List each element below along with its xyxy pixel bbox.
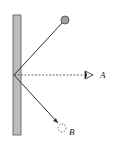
- ball: [61, 16, 69, 24]
- diagram: A B: [0, 0, 114, 148]
- eye-icon: [85, 71, 93, 79]
- ball-image: [58, 124, 66, 132]
- label-b: B: [69, 127, 75, 137]
- label-a: A: [99, 70, 106, 80]
